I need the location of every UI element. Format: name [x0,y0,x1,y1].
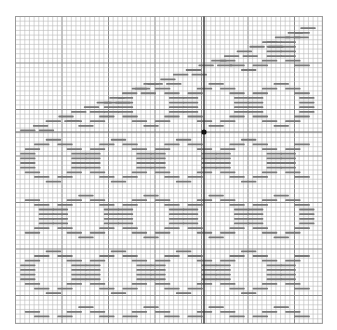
stitch-dash [183,218,198,220]
stitch-dash [104,111,119,113]
stitch-dash [122,176,137,178]
stitch-dash [262,260,277,262]
stitch-dash [71,269,86,271]
stitch-dash [208,195,223,197]
stitch-dash [299,223,314,225]
knitting-chart: Knitting chart — ring lace motif [0,0,337,330]
stitch-dash [164,204,179,206]
stitch-dash [183,97,198,99]
stitch-dash [155,199,170,201]
stitch-dash [249,46,264,48]
stitch-dash [241,181,256,183]
stitch-dash [20,130,35,132]
stitch-dash [229,64,244,66]
stitch-dash [143,306,158,308]
stitch-dash [25,260,40,262]
stitch-dash [111,250,126,252]
stitch-dash [104,223,119,225]
stitch-dash [183,106,198,108]
stitch-dash [136,264,151,266]
stitch-dash [281,157,296,159]
stitch-dash [132,232,147,234]
stitch-dash [267,55,282,57]
stitch-dash [253,204,268,206]
stitch-dash [248,102,263,104]
stitch-dash [215,157,230,159]
stitch-dash [234,218,249,220]
stitch-dash [267,162,282,164]
stitch-dash [253,64,268,66]
stitch-dash [90,232,105,234]
stitch-dash [183,111,198,113]
stitch-dash [188,255,203,257]
stitch-dash [281,41,296,43]
stitch-dash [122,227,137,229]
stitch-dash [176,250,191,252]
stitch-dash [281,162,296,164]
stitch-dash [229,92,244,94]
stitch-dash [234,209,249,211]
stitch-dash [267,153,282,155]
stitch-dash [99,176,114,178]
stitch-dash [215,264,230,266]
stitch-dash [274,195,289,197]
stitch-dash [267,41,282,43]
stitch-dash [295,227,310,229]
stitch-dash [253,116,268,118]
stitch-dash [169,223,184,225]
stitch-dash [215,278,230,280]
stitch-dash [262,148,277,150]
stitch-dash [169,213,184,215]
stitch-dash [118,213,133,215]
stitch-dash [299,218,314,220]
stitch-dash [136,274,151,276]
stitch-dash [78,125,93,127]
stitch-dash [253,255,268,257]
stitch-dash [71,167,86,169]
stitch-dash [85,274,100,276]
center-dot-icon [201,129,206,134]
stitch-dash [183,209,198,211]
stitch-dash [150,157,165,159]
stitch-dash [155,283,170,285]
stitch-dash [220,311,235,313]
stitch-dash [155,311,170,313]
stitch-dash [248,97,263,99]
stitch-dash [150,274,165,276]
stitch-dash [274,83,289,85]
stitch-dash [33,125,48,127]
stitch-dash [155,171,170,173]
stitch-dash [122,204,137,206]
stitch-dash [253,227,268,229]
stitch-dash [85,167,100,169]
stitch-dash [85,153,100,155]
stitch-dash [99,204,114,206]
stitch-dash [224,55,239,57]
stitch-dash [253,176,268,178]
stitch-dash [122,116,137,118]
stitch-dash [220,232,235,234]
stitch-dash [229,204,244,206]
stitch-dash [248,223,263,225]
stitch-dash [20,269,35,271]
stitch-dash [234,213,249,215]
stitch-dash [295,64,310,66]
stitch-dash [220,120,235,122]
stitch-dash [155,232,170,234]
stitch-dash [215,167,230,169]
stitch-dash [188,116,203,118]
stitch-dash [169,111,184,113]
stitch-dash [67,260,82,262]
stitch-dash [155,120,170,122]
stitch-dash [215,162,230,164]
stitch-dash [67,171,82,173]
stitch-dash [299,213,314,215]
stitch-dash [281,46,296,48]
stitch-dash [118,223,133,225]
stitch-dash [57,255,72,257]
stitch-dash [20,162,35,164]
stitch-dash [39,209,54,211]
stitch-dash [274,236,289,238]
stitch-dash [253,316,268,318]
stitch-dash [169,106,184,108]
